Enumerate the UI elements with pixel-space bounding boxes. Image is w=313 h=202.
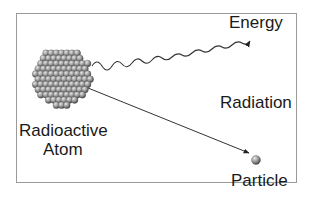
particle-label: Particle bbox=[231, 172, 288, 190]
atom-nucleus-icon bbox=[32, 50, 93, 109]
energy-wave-arrow bbox=[92, 41, 250, 70]
radiation-label: Radiation bbox=[220, 94, 292, 112]
energy-label: Energy bbox=[229, 14, 283, 32]
atom-label-line1: Radioactive bbox=[19, 122, 108, 140]
atom-label-line2: Atom bbox=[43, 141, 83, 159]
particle-sphere-icon bbox=[252, 156, 261, 165]
